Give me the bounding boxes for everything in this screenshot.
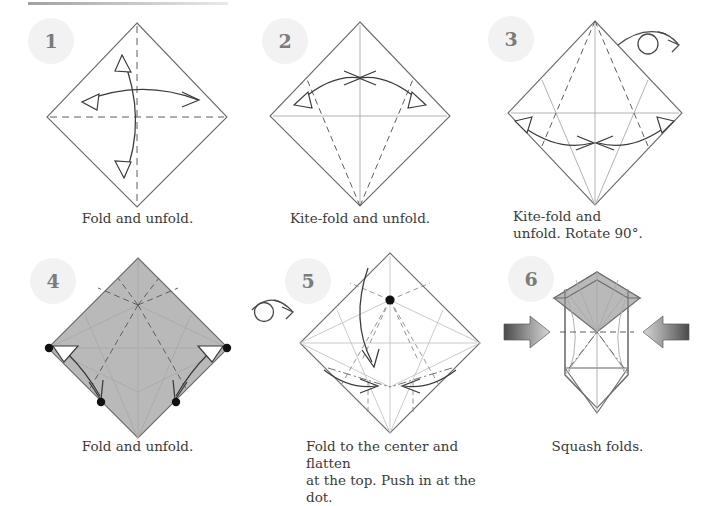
step-3-figure: [470, 0, 703, 215]
step-4-figure: [0, 250, 250, 440]
turn-over-tail: [274, 300, 292, 311]
turn-over-icon: [252, 300, 293, 322]
turn-over-arc: [618, 32, 666, 45]
step-6-caption: Squash folds.: [500, 438, 695, 455]
step-1-figure: [0, 0, 240, 215]
paper-lower-point: [565, 368, 628, 413]
reference-dot-right: [223, 344, 231, 352]
reference-dot-lower-left: [97, 398, 105, 406]
step-4-caption: Fold and unfold.: [30, 438, 245, 455]
step-2: 2 Kite-fold and unfold.: [240, 0, 480, 250]
turn-over-loop: [255, 303, 274, 322]
step-4: 4: [0, 250, 250, 494]
turn-over-arrowhead: [668, 40, 679, 52]
step-1-caption: Fold and unfold.: [30, 210, 245, 227]
step-1: 1 Fold and unfold.: [0, 0, 240, 250]
reference-dot-lower-right: [172, 398, 180, 406]
step-3: 3 Kite-fold and unfold.: [470, 0, 703, 250]
step-6-figure: [490, 250, 703, 440]
step-2-caption: Kite-fold and unfold.: [250, 210, 470, 227]
turn-over-loop: [638, 34, 658, 54]
turn-over-arc: [252, 300, 280, 310]
step-5: 5: [250, 250, 500, 494]
turn-over-icon: [618, 32, 679, 54]
reference-dot-center: [385, 295, 394, 304]
step-5-caption: Fold to the center and flatten at the to…: [306, 438, 506, 506]
reference-dot-left: [45, 344, 53, 352]
turn-over-arrowhead: [282, 307, 293, 319]
step-6: 6: [490, 250, 703, 494]
push-arrow-left: [504, 316, 550, 348]
turn-over-tail: [658, 32, 678, 44]
step-5-figure: [250, 250, 500, 440]
step-2-figure: [240, 0, 480, 215]
step-3-caption: Kite-fold and unfold. Rotate 90°.: [513, 208, 693, 242]
push-arrow-right: [643, 316, 689, 348]
